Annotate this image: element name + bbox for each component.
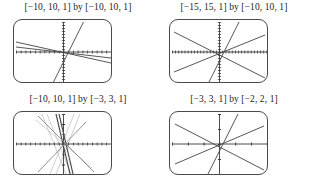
graph-plot-bottom-left: [14, 112, 112, 175]
graph-plot-bottom-right: [170, 112, 268, 175]
calculator-panel-bottom-right: [−3, 3, 1] by [−2, 2, 1]: [156, 92, 312, 184]
calculator-screen-wrapper: [169, 19, 268, 83]
figure-four-viewing-windows: [−10, 10, 1] by [−10, 10, 1]: [0, 0, 312, 184]
calculator-screen: [169, 111, 268, 175]
panel-caption: [−15, 15, 1] by [−10, 10, 1]: [156, 1, 312, 13]
calculator-screen-wrapper: [13, 19, 112, 83]
calculator-screen: [13, 111, 112, 175]
graph-plot-top-right: [170, 20, 268, 83]
calculator-screen-wrapper: [169, 111, 268, 175]
panel-caption: [−3, 3, 1] by [−2, 2, 1]: [156, 93, 312, 105]
axes-group: [172, 114, 267, 174]
calculator-panel-bottom-left: [−10, 10, 1] by [−3, 3, 1]: [0, 92, 156, 184]
calculator-screen: [13, 19, 112, 83]
calculator-panel-top-left: [−10, 10, 1] by [−10, 10, 1]: [0, 0, 156, 92]
panel-caption: [−10, 10, 1] by [−10, 10, 1]: [0, 1, 156, 13]
calculator-screen: [169, 19, 268, 83]
panel-caption: [−10, 10, 1] by [−3, 3, 1]: [0, 93, 156, 105]
graph-plot-top-left: [14, 20, 112, 83]
axes-group: [172, 22, 267, 82]
calculator-screen-wrapper: [13, 111, 112, 175]
axes-group: [16, 22, 111, 82]
calculator-panel-top-right: [−15, 15, 1] by [−10, 10, 1]: [156, 0, 312, 92]
